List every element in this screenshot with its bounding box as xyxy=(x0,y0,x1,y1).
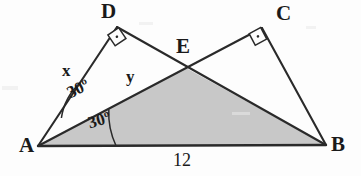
vertex-label-A: A xyxy=(19,135,34,156)
side-label-12: 12 xyxy=(173,151,191,169)
side-label-y: y xyxy=(126,68,135,85)
side-label-x: x xyxy=(62,62,71,79)
geometry-figure: D C E A B x y 12 30º 30º xyxy=(0,0,361,176)
vertex-label-D: D xyxy=(101,1,116,22)
vertex-label-E: E xyxy=(176,36,190,57)
vertex-label-B: B xyxy=(331,134,345,155)
vertex-label-C: C xyxy=(276,3,291,24)
segment-AB xyxy=(38,145,326,146)
